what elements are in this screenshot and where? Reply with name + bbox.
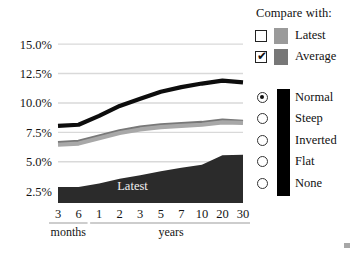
area-label-group: Latest (117, 179, 148, 193)
radio-row-normal[interactable]: Normal (255, 87, 268, 108)
series-lines-group (58, 81, 243, 145)
radio-button-none[interactable] (257, 178, 268, 189)
checkmark-icon: ✔ (257, 50, 267, 62)
radio-group-color-bar (277, 89, 290, 196)
radio-row-steep[interactable]: Steep (255, 108, 268, 129)
x-tick-label: 20 (216, 207, 229, 221)
radio-label-inverted: Inverted (295, 133, 337, 148)
yield-curve-chart: Latest 15.0%12.5%10.0%7.5%5.0%2.5% 36123… (0, 0, 250, 253)
x-tick-label: 1 (96, 207, 102, 221)
radio-label-flat: Flat (295, 154, 314, 169)
x-tick-label: 7 (178, 207, 184, 221)
y-axis-tick-labels: 15.0%12.5%10.0%7.5%5.0%2.5% (20, 38, 52, 199)
radio-button-inverted[interactable] (257, 135, 268, 146)
checkbox-label-average: Average (295, 49, 336, 64)
area-inline-label: Latest (117, 179, 148, 193)
y-tick-label: 5.0% (26, 155, 52, 169)
x-axis-tick-labels: 3612357102030 (55, 207, 249, 221)
compare-controls-panel: Compare with: Latest ✔ Average NormalSte… (252, 0, 352, 253)
chart-plot-area: Latest 15.0%12.5%10.0%7.5%5.0%2.5% 36123… (0, 0, 250, 253)
x-tick-label: 3 (137, 207, 143, 221)
radio-label-none: None (295, 176, 322, 191)
x-tick-label: 2 (117, 207, 123, 221)
checkbox-latest[interactable] (255, 30, 267, 42)
checkbox-row-latest[interactable]: Latest (255, 27, 326, 44)
x-tick-label: 30 (237, 207, 250, 221)
x-tick-label: 6 (75, 207, 81, 221)
radio-row-flat[interactable]: Flat (255, 151, 268, 172)
x-group-label: months (51, 225, 87, 239)
radio-row-none[interactable]: None (255, 173, 268, 194)
x-axis-group-labels: monthsyears (49, 223, 250, 239)
radio-label-normal: Normal (295, 90, 333, 105)
x-tick-label: 3 (55, 207, 61, 221)
y-tick-label: 2.5% (26, 185, 52, 199)
radio-button-normal[interactable] (257, 92, 268, 103)
checkbox-average[interactable]: ✔ (255, 51, 267, 63)
x-group-label: years (158, 225, 184, 239)
y-tick-label: 15.0% (20, 38, 52, 52)
curve-shape-radio-group: NormalSteepInvertedFlatNone (255, 87, 352, 199)
radio-row-inverted[interactable]: Inverted (255, 130, 268, 151)
y-tick-label: 12.5% (20, 67, 52, 81)
radio-button-steep[interactable] (257, 113, 268, 124)
x-tick-label: 5 (158, 207, 164, 221)
color-swatch-latest (274, 28, 288, 44)
radio-button-flat[interactable] (257, 156, 268, 167)
corner-artifact (344, 243, 350, 248)
y-tick-label: 10.0% (20, 96, 52, 110)
radio-label-steep: Steep (295, 111, 323, 126)
x-tick-label: 10 (196, 207, 209, 221)
color-swatch-average (274, 49, 288, 65)
checkbox-row-average[interactable]: ✔ Average (255, 48, 336, 65)
y-tick-label: 7.5% (26, 126, 52, 140)
checkbox-label-latest: Latest (295, 28, 326, 43)
compare-with-title: Compare with: (256, 6, 332, 21)
